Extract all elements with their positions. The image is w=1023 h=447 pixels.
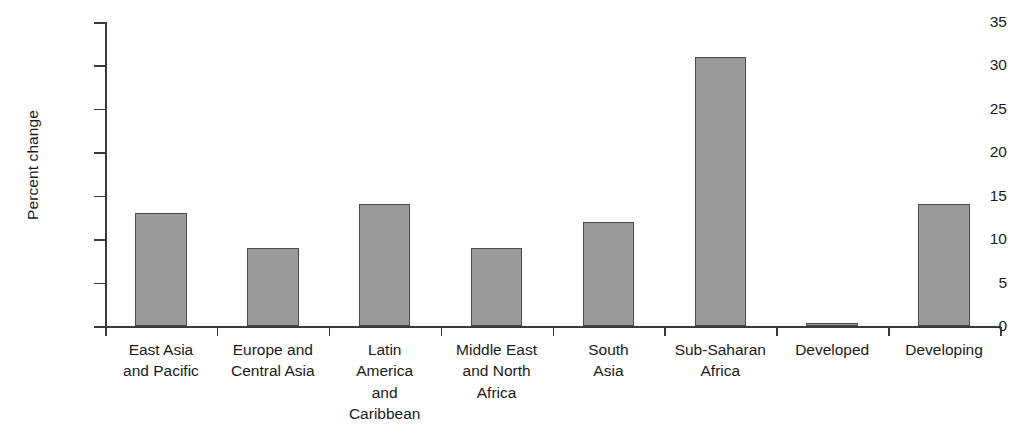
- x-tick-mark: [553, 327, 555, 336]
- plot-area: [105, 22, 1000, 326]
- x-category-label: Europe andCentral Asia: [217, 339, 329, 382]
- x-category-label-line: Developed: [776, 339, 888, 360]
- y-tick-mark: [94, 152, 105, 154]
- y-tick-mark: [94, 326, 105, 328]
- bar: [583, 222, 634, 326]
- y-tick-mark: [94, 109, 105, 111]
- x-tick-mark: [776, 327, 778, 336]
- y-tick-mark: [94, 283, 105, 285]
- x-category-label-line: Europe and: [217, 339, 329, 360]
- bar: [918, 204, 969, 326]
- bar: [247, 248, 298, 326]
- bar: [471, 248, 522, 326]
- x-tick-mark: [888, 327, 890, 336]
- x-tick-mark: [1000, 327, 1002, 336]
- x-tick-mark: [217, 327, 219, 336]
- y-axis-title: Percent change: [10, 0, 56, 330]
- x-category-label-line: Middle East: [441, 339, 553, 360]
- x-category-label-line: and Pacific: [105, 360, 217, 381]
- x-category-label-line: Developing: [888, 339, 1000, 360]
- x-tick-mark: [664, 327, 666, 336]
- y-axis-title-text: Percent change: [24, 110, 42, 220]
- x-category-label-line: Africa: [441, 382, 553, 403]
- x-category-label-line: and: [329, 382, 441, 403]
- x-category-label: Developing: [888, 339, 1000, 360]
- y-tick-mark: [94, 65, 105, 67]
- x-category-label: East Asiaand Pacific: [105, 339, 217, 382]
- x-tick-mark: [105, 327, 107, 336]
- x-category-label-line: East Asia: [105, 339, 217, 360]
- bar: [135, 213, 186, 326]
- bar: [806, 323, 857, 327]
- x-category-label-line: Central Asia: [217, 360, 329, 381]
- x-tick-mark: [329, 327, 331, 336]
- x-category-label-line: Sub-Saharan: [664, 339, 776, 360]
- x-category-label-line: South: [553, 339, 665, 360]
- bar-chart: Percent change 05101520253035 East Asiaa…: [0, 0, 1023, 447]
- x-category-label: Developed: [776, 339, 888, 360]
- bar: [695, 57, 746, 326]
- y-tick-mark: [94, 239, 105, 241]
- x-category-label: SouthAsia: [553, 339, 665, 382]
- x-category-label: Middle Eastand NorthAfrica: [441, 339, 553, 403]
- x-category-label-line: Africa: [664, 360, 776, 381]
- x-category-label: Sub-SaharanAfrica: [664, 339, 776, 382]
- x-category-label: LatinAmericaandCaribbean: [329, 339, 441, 425]
- y-tick-mark: [94, 196, 105, 198]
- x-category-label-line: America: [329, 360, 441, 381]
- x-category-label-line: and North: [441, 360, 553, 381]
- bar: [359, 204, 410, 326]
- y-tick-mark: [94, 22, 105, 24]
- x-category-label-line: Asia: [553, 360, 665, 381]
- x-tick-mark: [441, 327, 443, 336]
- x-category-label-line: Latin: [329, 339, 441, 360]
- x-category-label-line: Caribbean: [329, 403, 441, 424]
